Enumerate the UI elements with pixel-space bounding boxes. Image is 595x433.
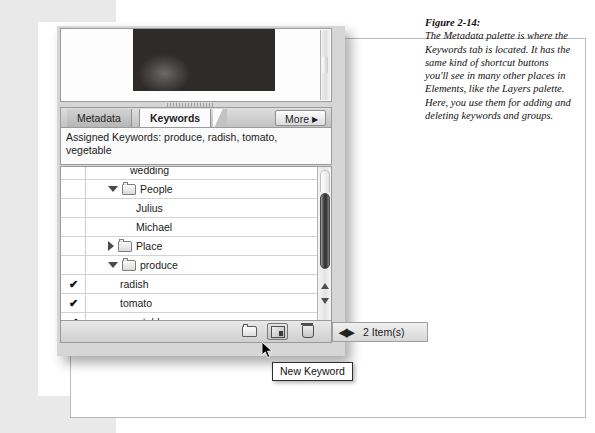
keyword-checkbox[interactable] — [61, 180, 86, 198]
keyword-checkbox-checked[interactable]: ✔ — [61, 275, 86, 293]
scrollbar-thumb[interactable] — [320, 193, 330, 269]
chevron-right-icon: ▶ — [312, 115, 318, 124]
keyword-checkbox[interactable] — [61, 256, 86, 274]
page-margin-left — [0, 0, 38, 433]
figure-caption: Figure 2-14: The Metadata palette is whe… — [425, 16, 573, 122]
image-preview-pane — [60, 28, 332, 102]
page-margin-top — [38, 0, 116, 22]
keyword-row-label-cell: Place — [86, 240, 318, 252]
keyword-row[interactable]: produce — [61, 256, 318, 275]
tab-metadata[interactable]: Metadata — [67, 109, 132, 127]
item-count-text: 2 Item(s) — [363, 326, 404, 338]
keyword-checkbox[interactable] — [61, 218, 86, 236]
keyword-checkbox[interactable] — [61, 166, 86, 179]
new-keyword-button[interactable] — [267, 323, 288, 340]
status-bar: ◀▶ 2 Item(s) — [332, 322, 428, 342]
new-folder-icon — [242, 326, 257, 337]
keyword-list-pane[interactable]: weddingPeopleJuliusMichaelPlaceproduce✔r… — [60, 166, 332, 321]
keyword-checkbox-checked[interactable]: ✔ — [61, 313, 86, 321]
metadata-palette-window: Metadata Keywords More▶ Assigned Keyword… — [57, 26, 345, 356]
keyword-label: radish — [120, 278, 149, 290]
trash-icon — [302, 325, 314, 338]
keyword-toolbar — [60, 321, 332, 343]
keyword-row[interactable]: ✔tomato — [61, 294, 318, 313]
figure-number: Figure 2-14: — [425, 16, 573, 29]
new-keyword-tag-icon — [271, 326, 285, 338]
figure-caption-text: The Metadata palette is where the Keywor… — [425, 30, 571, 121]
scroll-down-arrow-icon[interactable] — [321, 298, 329, 304]
keyword-row[interactable]: Place — [61, 237, 318, 256]
keyword-checkbox[interactable] — [61, 237, 86, 255]
assigned-keywords-text: Assigned Keywords: produce, radish, toma… — [60, 127, 332, 165]
keyword-list-scrollbar[interactable] — [317, 167, 331, 320]
keyword-row-label-cell: radish — [86, 278, 318, 290]
preview-scrollbar-thumb[interactable] — [322, 56, 328, 74]
scroll-up-arrow-icon[interactable] — [321, 283, 329, 289]
delete-keyword-button[interactable] — [297, 323, 318, 340]
folder-icon — [122, 260, 136, 271]
palette-tab-strip: Metadata Keywords More▶ — [60, 107, 332, 127]
keyword-row-label-cell: Michael — [86, 221, 318, 233]
produce-photo-thumbnail — [133, 29, 275, 91]
keyword-label: tomato — [120, 297, 152, 309]
keyword-row-label-cell: People — [86, 183, 318, 195]
keyword-label: Michael — [136, 221, 172, 233]
keyword-checkbox-checked[interactable]: ✔ — [61, 294, 86, 312]
more-button-label: More — [285, 113, 309, 125]
new-keyword-set-button[interactable] — [239, 323, 260, 340]
keyword-row[interactable]: Michael — [61, 218, 318, 237]
keyword-row[interactable]: ✔radish — [61, 275, 318, 294]
more-button[interactable]: More▶ — [275, 110, 326, 126]
tooltip-new-keyword: New Keyword — [272, 362, 353, 381]
keyword-label: wedding — [130, 166, 169, 176]
disclosure-triangle-open-icon[interactable] — [108, 186, 118, 192]
keyword-row[interactable]: People — [61, 180, 318, 199]
keyword-row-label-cell: tomato — [86, 297, 318, 309]
keyword-row[interactable]: ✔vegetable — [61, 313, 318, 321]
tab-keywords[interactable]: Keywords — [139, 109, 211, 127]
keyword-rows-container: weddingPeopleJuliusMichaelPlaceproduce✔r… — [61, 166, 318, 321]
disclosure-triangle-open-icon[interactable] — [108, 262, 118, 268]
keyword-label: People — [140, 183, 173, 195]
keyword-row-label-cell: wedding — [86, 166, 318, 176]
mouse-cursor-icon — [262, 342, 274, 360]
resize-handle-icon[interactable]: ◀▶ — [339, 327, 353, 338]
disclosure-triangle-closed-icon[interactable] — [108, 241, 114, 251]
keyword-label: Place — [136, 240, 162, 252]
scrollbar-track-top[interactable] — [320, 170, 330, 192]
keyword-row-label-cell: Julius — [86, 202, 318, 214]
preview-scrollbar[interactable] — [320, 30, 330, 100]
keyword-row[interactable]: wedding — [61, 166, 318, 180]
keyword-row-label-cell: produce — [86, 259, 318, 271]
keyword-label: Julius — [136, 202, 163, 214]
keyword-row[interactable]: Julius — [61, 199, 318, 218]
folder-icon — [122, 184, 136, 195]
keyword-checkbox[interactable] — [61, 199, 86, 217]
folder-icon — [118, 241, 132, 252]
keyword-label: produce — [140, 259, 178, 271]
tab-slant-decoration — [213, 109, 227, 127]
